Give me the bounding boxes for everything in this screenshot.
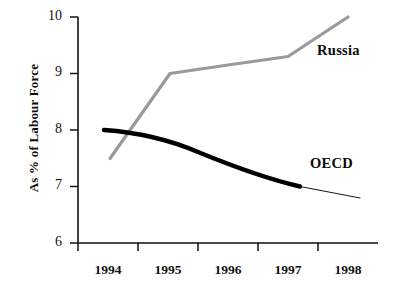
- y-tick-label-9: 9: [40, 64, 62, 80]
- series-line-oecd: [104, 130, 300, 187]
- y-tick-marks: [70, 17, 78, 243]
- x-tick-marks: [78, 243, 318, 251]
- y-tick-label-8: 8: [40, 121, 62, 137]
- x-tick-label-1994: 1994: [85, 262, 131, 278]
- series-label-oecd: OECD: [310, 155, 353, 172]
- x-tick-label-1995: 1995: [145, 262, 191, 278]
- unemployment-line-chart: As % of Labour Force 10 9 8 7 6 1994 199…: [0, 0, 398, 296]
- y-tick-label-10: 10: [40, 8, 62, 24]
- x-tick-label-1996: 1996: [205, 262, 251, 278]
- series-label-russia: Russia: [317, 42, 360, 59]
- x-tick-label-1998: 1998: [325, 262, 371, 278]
- series-line-oecd-projection: [300, 187, 360, 199]
- y-tick-label-7: 7: [40, 177, 62, 193]
- x-tick-label-1997: 1997: [265, 262, 311, 278]
- y-tick-label-6: 6: [40, 234, 62, 250]
